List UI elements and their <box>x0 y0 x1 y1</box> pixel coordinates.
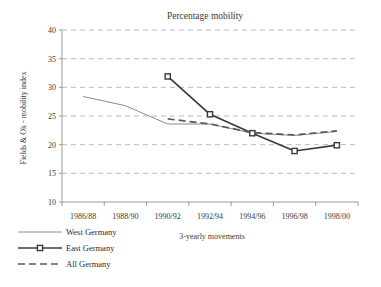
y-tick-label: 20 <box>48 141 56 150</box>
series-east-germany <box>165 74 339 154</box>
x-tick-label: 1994/96 <box>239 212 265 221</box>
legend-label: West Germany <box>66 227 117 237</box>
legend-item-all-germany[interactable]: All Germany <box>18 259 111 269</box>
x-tick-label: 1986/88 <box>70 212 96 221</box>
y-tick-label: 25 <box>48 112 56 121</box>
legend-item-west-germany[interactable]: West Germany <box>18 227 117 237</box>
y-tick-labels: 10152025303540 <box>48 26 56 207</box>
x-tick-label: 1992/94 <box>197 212 223 221</box>
legend-label: All Germany <box>66 259 111 269</box>
legend-label: East Germany <box>66 243 115 253</box>
chart-legend: West GermanyEast GermanyAll Germany <box>18 227 117 269</box>
x-tick-label: 1996/98 <box>281 212 307 221</box>
x-tick-label: 1998/00 <box>324 212 350 221</box>
x-tick-label: 1988/90 <box>112 212 138 221</box>
mobility-line-chart: Percentage mobility Fields & Ok - mobili… <box>0 0 381 287</box>
data-series-layer <box>83 74 339 154</box>
legend-item-east-germany[interactable]: East Germany <box>18 243 115 253</box>
data-point-marker <box>334 143 339 148</box>
y-tick-label: 35 <box>48 55 56 64</box>
chart-container: Percentage mobility Fields & Ok - mobili… <box>0 0 381 287</box>
chart-title: Percentage mobility <box>167 11 243 21</box>
x-tick-marks <box>62 202 358 206</box>
data-point-marker <box>165 74 170 79</box>
y-tick-label: 10 <box>48 198 56 207</box>
x-tick-label: 1990/92 <box>155 212 181 221</box>
legend-marker <box>37 245 42 250</box>
x-tick-labels: 1986/881988/901990/921992/941994/961996/… <box>70 212 350 221</box>
y-tick-label: 40 <box>48 26 56 35</box>
y-tick-label: 30 <box>48 83 56 92</box>
y-axis-title: Fields & Ok - mobility index <box>19 71 28 164</box>
data-point-marker <box>292 148 297 153</box>
y-tick-label: 15 <box>48 169 56 178</box>
x-axis-title: 3-yearly movements <box>179 232 245 241</box>
data-point-marker <box>207 112 212 117</box>
